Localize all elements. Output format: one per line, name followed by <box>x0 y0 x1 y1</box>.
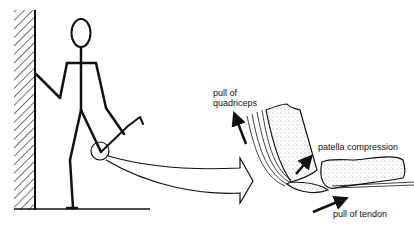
pull-of-tendon-label: pull of tendon <box>333 209 387 219</box>
stick-figure <box>36 19 143 208</box>
wall <box>14 10 35 210</box>
magnify-arrow <box>91 142 253 203</box>
quadriceps-label: pull of quadriceps <box>213 88 257 108</box>
quadriceps-label-line1: pull of <box>213 88 257 98</box>
patella-compression-label: patella compression <box>318 142 398 152</box>
quadriceps-label-line2: quadriceps <box>213 98 257 108</box>
quadriceps-arrow <box>236 118 246 144</box>
diagram-canvas <box>0 0 414 227</box>
